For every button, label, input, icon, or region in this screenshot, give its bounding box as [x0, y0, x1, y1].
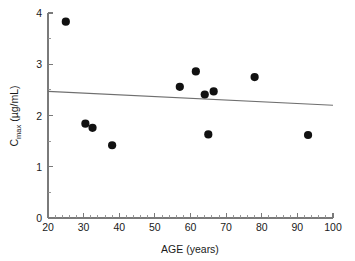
data-point [210, 87, 218, 95]
data-point [62, 18, 70, 26]
y-tick-label: 3 [36, 58, 42, 70]
plot-canvas: 2030405060708090100 01234 AGE (years) Cm… [0, 0, 355, 261]
scatter-plot-figure: 2030405060708090100 01234 AGE (years) Cm… [0, 0, 355, 261]
x-axis-ticks [48, 213, 333, 218]
data-point [108, 141, 116, 149]
regression-trend-line [48, 91, 333, 105]
x-tick-label: 40 [113, 221, 125, 233]
data-point [251, 73, 259, 81]
trend-line-segment [48, 91, 333, 105]
y-axis-title-subscript: max [14, 125, 23, 139]
y-tick-label: 2 [36, 110, 42, 122]
x-axis-title: AGE (years) [161, 243, 219, 255]
data-points-group [62, 18, 312, 150]
data-point [88, 124, 96, 132]
x-tick-label: 60 [185, 221, 197, 233]
y-axis-title-group: Cmax (µg/mL) [8, 85, 23, 146]
y-axis-title-unit: (µg/mL) [8, 85, 20, 124]
data-point [204, 130, 212, 138]
data-point [304, 131, 312, 139]
x-tick-label: 30 [78, 221, 90, 233]
data-point [81, 120, 89, 128]
x-tick-label: 50 [149, 221, 161, 233]
x-tick-label: 90 [292, 221, 304, 233]
x-tick-label: 70 [220, 221, 232, 233]
y-tick-label: 1 [36, 161, 42, 173]
y-tick-label: 0 [36, 212, 42, 224]
y-tick-label: 4 [36, 7, 42, 19]
y-axis-tick-labels: 01234 [36, 7, 42, 224]
y-axis-title: Cmax (µg/mL) [8, 85, 23, 146]
data-point [176, 83, 184, 91]
y-axis-ticks [48, 13, 53, 218]
data-point [192, 67, 200, 75]
x-tick-label: 80 [256, 221, 268, 233]
data-point [201, 90, 209, 98]
axes-group [48, 13, 333, 218]
x-tick-label: 100 [324, 221, 342, 233]
x-tick-label: 20 [42, 221, 54, 233]
x-axis-tick-labels: 2030405060708090100 [42, 221, 342, 233]
